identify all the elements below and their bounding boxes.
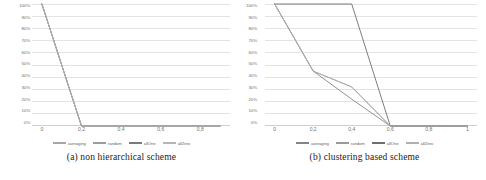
y-tick-label: 80% bbox=[249, 26, 258, 31]
y-tick-label: 40% bbox=[249, 73, 258, 78]
legend-label: random bbox=[351, 141, 365, 146]
caption-b: (b) clustering based scheme bbox=[243, 152, 486, 162]
series-line bbox=[42, 4, 220, 126]
x-tick-label: 0,8 bbox=[425, 126, 432, 132]
x-tick-label: 0,8 bbox=[197, 126, 204, 132]
series-line bbox=[42, 4, 220, 126]
axes-a bbox=[32, 4, 230, 126]
legend-color-swatch bbox=[53, 142, 66, 143]
y-tick-label: 20% bbox=[249, 96, 258, 101]
x-tick-label: 0,4 bbox=[118, 126, 125, 132]
chart-panel-a: 100%90%80%70%60%50%40%30%20%10%0% 00,20,… bbox=[0, 0, 243, 180]
legend-a: averagingrandomallOneallZero bbox=[0, 138, 243, 148]
legend-label: allOne bbox=[387, 141, 399, 146]
series-line bbox=[42, 4, 220, 126]
legend-label: random bbox=[108, 141, 122, 146]
plot-area-b: 100%90%80%70%60%50%40%30%20%10%0% 00,20,… bbox=[243, 2, 486, 134]
y-tick-label: 50% bbox=[249, 61, 258, 66]
legend-item[interactable]: random bbox=[93, 141, 122, 146]
legend-item[interactable]: allZero bbox=[406, 141, 433, 146]
x-tick-label: 0 bbox=[41, 126, 44, 132]
y-tick-label: 70% bbox=[22, 38, 31, 43]
legend-color-swatch bbox=[406, 142, 419, 143]
legend-label: averaging bbox=[68, 141, 86, 146]
y-tick-label: 60% bbox=[249, 49, 258, 54]
y-tick-label: 100% bbox=[19, 3, 30, 8]
series-line bbox=[275, 4, 468, 126]
y-tick-label: 50% bbox=[22, 61, 31, 66]
legend-color-swatch bbox=[163, 142, 176, 143]
legend-item[interactable]: allOne bbox=[129, 141, 156, 146]
y-tick-label: 0% bbox=[24, 119, 30, 124]
series-line bbox=[42, 4, 220, 126]
y-tick-label: 20% bbox=[22, 96, 31, 101]
y-tick-label: 30% bbox=[22, 84, 31, 89]
legend-item[interactable]: allOne bbox=[372, 141, 399, 146]
axes-b bbox=[265, 4, 477, 126]
legend-item[interactable]: allZero bbox=[163, 141, 190, 146]
y-tick-label: 90% bbox=[249, 14, 258, 19]
y-tick-label: 80% bbox=[22, 26, 31, 31]
legend-item[interactable]: averaging bbox=[53, 141, 86, 146]
x-tick-label: 0,2 bbox=[78, 126, 85, 132]
legend-label: allZero bbox=[421, 141, 433, 146]
y-axis-labels-b: 100%90%80%70%60%50%40%30%20%10%0% bbox=[229, 4, 257, 126]
x-tick-label: 1 bbox=[466, 126, 469, 132]
legend-item[interactable]: averaging bbox=[296, 141, 329, 146]
x-tick-label: 0,4 bbox=[348, 126, 355, 132]
y-tick-label: 90% bbox=[22, 14, 31, 19]
legend-b: averagingrandomallOneallZero bbox=[243, 138, 486, 148]
legend-color-swatch bbox=[93, 142, 106, 143]
series-lines-a bbox=[32, 4, 230, 126]
legend-label: averaging bbox=[311, 141, 329, 146]
chart-panel-b: 100%90%80%70%60%50%40%30%20%10%0% 00,20,… bbox=[243, 0, 486, 180]
y-tick-label: 70% bbox=[249, 38, 258, 43]
legend-item[interactable]: random bbox=[336, 141, 365, 146]
legend-color-swatch bbox=[336, 142, 349, 143]
y-tick-label: 30% bbox=[249, 84, 258, 89]
y-tick-label: 60% bbox=[22, 49, 31, 54]
legend-color-swatch bbox=[296, 142, 309, 143]
legend-label: allZero bbox=[178, 141, 190, 146]
y-axis-labels-a: 100%90%80%70%60%50%40%30%20%10%0% bbox=[2, 4, 30, 126]
y-tick-label: 10% bbox=[22, 108, 31, 113]
x-tick-label: 0 bbox=[273, 126, 276, 132]
x-tick-label: 0,2 bbox=[310, 126, 317, 132]
x-axis-labels-b: 00,20,40,60,81 bbox=[265, 126, 477, 138]
x-axis-labels-a: 00,20,40,60,8 bbox=[32, 126, 230, 138]
y-tick-label: 100% bbox=[246, 3, 257, 8]
y-tick-label: 0% bbox=[251, 119, 257, 124]
caption-a: (a) non hierarchical scheme bbox=[0, 152, 243, 162]
series-lines-b bbox=[265, 4, 477, 126]
legend-label: allOne bbox=[144, 141, 156, 146]
x-tick-label: 0,6 bbox=[157, 126, 164, 132]
y-tick-label: 40% bbox=[22, 73, 31, 78]
figure-two-panel-charts: 100%90%80%70%60%50%40%30%20%10%0% 00,20,… bbox=[0, 0, 486, 180]
x-tick-label: 0,6 bbox=[387, 126, 394, 132]
legend-color-swatch bbox=[129, 142, 142, 143]
legend-color-swatch bbox=[372, 142, 385, 143]
y-tick-label: 10% bbox=[249, 108, 258, 113]
plot-area-a: 100%90%80%70%60%50%40%30%20%10%0% 00,20,… bbox=[0, 2, 243, 134]
